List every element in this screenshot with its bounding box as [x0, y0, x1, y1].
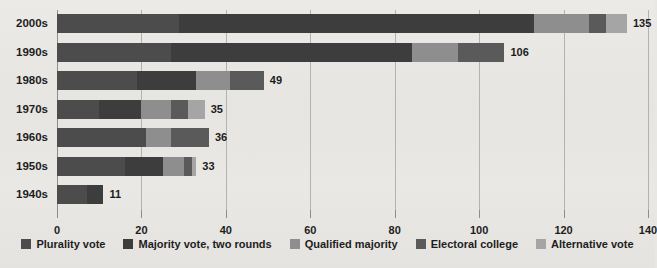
legend-label: Electoral college — [431, 238, 518, 250]
stacked-bar[interactable] — [57, 100, 205, 119]
legend-label: Qualified majority — [305, 238, 398, 250]
bar-segment[interactable] — [87, 185, 104, 204]
x-tick-mark — [226, 210, 227, 218]
legend-label: Plurality vote — [36, 238, 105, 250]
x-axis-tick-label: 140 — [639, 224, 657, 236]
legend-swatch-icon — [290, 239, 300, 249]
bar-segment[interactable] — [125, 157, 163, 176]
legend-item[interactable]: Qualified majority — [290, 238, 398, 250]
bar-segment[interactable] — [171, 128, 209, 147]
bar-segment[interactable] — [230, 71, 264, 90]
bar-segment[interactable] — [146, 128, 171, 147]
x-tick-mark — [310, 210, 311, 218]
x-tick-mark — [648, 210, 649, 218]
x-axis-tick-label: 100 — [470, 224, 488, 236]
bar-segment[interactable] — [606, 14, 627, 33]
bar-row[interactable]: 1990s106 — [57, 39, 648, 68]
bar-segment[interactable] — [141, 100, 171, 119]
bar-row[interactable]: 1940s11 — [57, 181, 648, 210]
x-axis-tick-label: 120 — [554, 224, 572, 236]
bar-segment[interactable] — [171, 100, 188, 119]
bar-value-label: 33 — [202, 157, 214, 176]
stacked-bar[interactable] — [57, 71, 264, 90]
bar-value-label: 135 — [633, 14, 651, 33]
bar-segment[interactable] — [57, 185, 87, 204]
bar-row[interactable]: 2000s135 — [57, 10, 648, 39]
bar-row[interactable]: 1970s35 — [57, 96, 648, 125]
stacked-bar[interactable] — [57, 185, 103, 204]
bar-segment[interactable] — [412, 43, 458, 62]
x-axis-tick-label: 40 — [220, 224, 232, 236]
x-tick-mark — [141, 210, 142, 218]
x-tick-mark — [479, 210, 480, 218]
legend-swatch-icon — [123, 239, 133, 249]
y-axis-category-label: 2000s — [0, 14, 48, 33]
bar-value-label: 11 — [109, 185, 121, 204]
y-axis-category-label: 1980s — [0, 71, 48, 90]
bar-segment[interactable] — [99, 100, 141, 119]
bar-segment[interactable] — [171, 43, 412, 62]
x-tick-mark — [564, 210, 565, 218]
legend-swatch-icon — [536, 239, 546, 249]
legend-swatch-icon — [21, 239, 31, 249]
stacked-bar[interactable] — [57, 43, 504, 62]
bar-value-label: 49 — [270, 71, 282, 90]
y-axis-category-label: 1950s — [0, 157, 48, 176]
chart-legend: Plurality voteMajority vote, two roundsQ… — [0, 238, 655, 250]
stacked-bar[interactable] — [57, 128, 209, 147]
legend-item[interactable]: Plurality vote — [21, 238, 105, 250]
bar-segment[interactable] — [458, 43, 504, 62]
bar-segment[interactable] — [163, 157, 184, 176]
plot-area: 0204060801001201402000s1351990s1061980s4… — [57, 10, 648, 210]
y-axis-category-label: 1940s — [0, 185, 48, 204]
bar-segment[interactable] — [57, 71, 137, 90]
bar-segment[interactable] — [188, 100, 205, 119]
bar-segment[interactable] — [196, 71, 230, 90]
bar-segment[interactable] — [57, 128, 146, 147]
x-tick-mark — [395, 210, 396, 218]
bar-segment[interactable] — [57, 100, 99, 119]
legend-item[interactable]: Majority vote, two rounds — [123, 238, 271, 250]
x-tick-mark — [57, 210, 58, 218]
bar-segment[interactable] — [179, 14, 534, 33]
x-axis-tick-label: 80 — [389, 224, 401, 236]
bar-row[interactable]: 1950s33 — [57, 153, 648, 182]
bar-segment[interactable] — [184, 157, 192, 176]
x-axis-tick-label: 0 — [54, 224, 60, 236]
bar-segment[interactable] — [57, 43, 171, 62]
bar-row[interactable]: 1960s36 — [57, 124, 648, 153]
legend-swatch-icon — [416, 239, 426, 249]
bar-segment[interactable] — [57, 157, 125, 176]
bar-value-label: 106 — [510, 43, 528, 62]
bar-segment[interactable] — [534, 14, 589, 33]
x-axis-tick-label: 20 — [135, 224, 147, 236]
bar-row[interactable]: 1980s49 — [57, 67, 648, 96]
stacked-bar[interactable] — [57, 14, 627, 33]
legend-label: Majority vote, two rounds — [138, 238, 271, 250]
legend-item[interactable]: Alternative vote — [536, 238, 634, 250]
bar-segment[interactable] — [589, 14, 606, 33]
y-axis-category-label: 1960s — [0, 128, 48, 147]
stacked-bar[interactable] — [57, 157, 196, 176]
legend-item[interactable]: Electoral college — [416, 238, 518, 250]
gridline — [648, 10, 649, 210]
legend-label: Alternative vote — [551, 238, 634, 250]
bar-value-label: 36 — [215, 128, 227, 147]
bar-segment[interactable] — [192, 157, 196, 176]
x-axis-tick-label: 60 — [304, 224, 316, 236]
y-axis-category-label: 1970s — [0, 100, 48, 119]
bar-segment[interactable] — [137, 71, 196, 90]
bar-segment[interactable] — [57, 14, 179, 33]
bar-chart: 0204060801001201402000s1351990s1061980s4… — [0, 0, 655, 232]
bar-value-label: 35 — [211, 100, 223, 119]
y-axis-category-label: 1990s — [0, 43, 48, 62]
